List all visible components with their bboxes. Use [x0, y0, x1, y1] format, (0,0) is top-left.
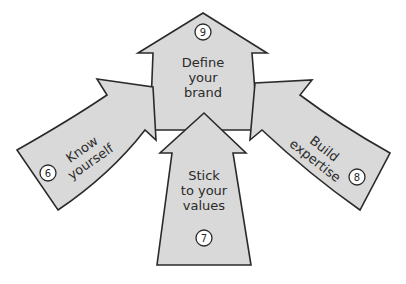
step-number-8: 8 — [354, 172, 360, 183]
arrow-build-expertise: 8 Build expertise — [250, 80, 390, 210]
arrow-define-your-brand: 9 Define your brand — [138, 13, 267, 130]
step-number-6: 6 — [45, 168, 51, 179]
label-line: to your — [181, 183, 228, 198]
arrow-know-yourself: 6 Know yourself — [17, 79, 156, 210]
label-line: your — [188, 70, 218, 85]
arrows-diagram: 9 Define your brand 6 Know yourself 8 Bu… — [0, 0, 406, 284]
label-line: brand — [184, 85, 222, 100]
label-line: Stick — [188, 168, 220, 183]
label-line: Define — [182, 55, 224, 70]
step-number-9: 9 — [200, 27, 206, 38]
label-line: values — [183, 198, 226, 213]
step-number-7: 7 — [201, 233, 207, 244]
arrow-stick-to-your-values: Stick to your values 7 — [157, 113, 251, 265]
